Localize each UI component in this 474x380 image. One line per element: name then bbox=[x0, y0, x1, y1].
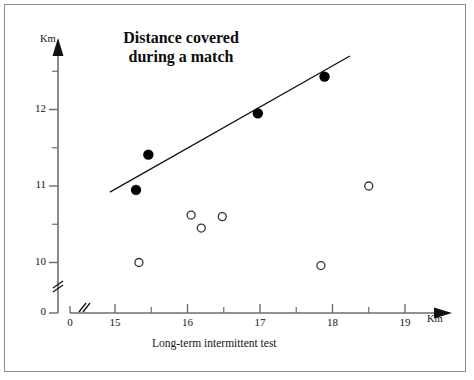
regression-line bbox=[110, 56, 350, 192]
open-data-point bbox=[365, 182, 373, 190]
x-tick-marks bbox=[115, 304, 405, 313]
y-axis bbox=[49, 38, 64, 313]
y-tick-label: 11 bbox=[26, 178, 46, 190]
filled-data-point bbox=[253, 108, 263, 118]
y-tick-label: 10 bbox=[26, 255, 46, 267]
x-tick-label: 17 bbox=[248, 316, 272, 328]
filled-data-point bbox=[319, 71, 329, 81]
y-tick-label: 12 bbox=[26, 102, 46, 114]
filled-data-point bbox=[143, 149, 153, 159]
filled-circle-series bbox=[131, 71, 330, 195]
open-data-point bbox=[218, 213, 226, 221]
chart-title-line-1: Distance covered bbox=[96, 28, 266, 47]
x-axis-title: Long-term intermittent test bbox=[152, 337, 277, 349]
open-data-point bbox=[187, 211, 195, 219]
x-tick-label: 15 bbox=[103, 316, 127, 328]
open-data-point bbox=[135, 259, 143, 267]
open-circle-series bbox=[135, 182, 373, 270]
x-axis-unit-label: Km bbox=[427, 313, 443, 324]
x-tick-label: 16 bbox=[176, 316, 200, 328]
trend-line bbox=[110, 56, 350, 192]
open-data-point bbox=[317, 262, 325, 270]
chart-title: Distance covered during a match bbox=[96, 28, 266, 66]
y-axis-unit-label: Km bbox=[40, 33, 56, 44]
y-tick-label: 0 bbox=[26, 305, 46, 317]
x-tick-label: 0 bbox=[58, 316, 82, 328]
x-axis-break-icon bbox=[79, 303, 90, 312]
y-tick-marks bbox=[49, 71, 58, 313]
x-tick-label: 18 bbox=[321, 316, 345, 328]
x-tick-label: 19 bbox=[393, 316, 417, 328]
filled-data-point bbox=[131, 185, 141, 195]
chart-title-line-2: during a match bbox=[96, 47, 266, 66]
open-data-point bbox=[197, 224, 205, 232]
